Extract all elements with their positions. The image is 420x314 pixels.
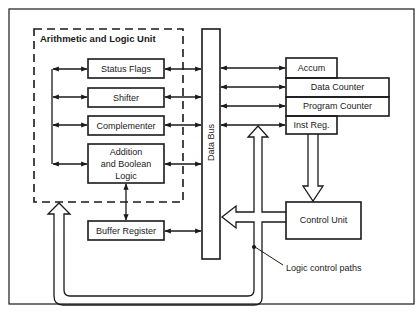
- buffer-register-label: Buffer Register: [88, 226, 164, 236]
- logic-path-upper: [48, 126, 286, 305]
- program-counter-label: Program Counter: [286, 101, 389, 111]
- logic-control-paths-annotation: Logic control paths: [286, 263, 362, 273]
- inst-reg-label: Inst Reg.: [286, 120, 337, 130]
- data-counter-label: Data Counter: [286, 82, 389, 92]
- complementer-label: Complementer: [88, 121, 164, 131]
- data-bus-label: Data Bus: [206, 124, 216, 161]
- accum-label: Accum: [286, 63, 337, 73]
- inst-to-control-path: [303, 134, 323, 201]
- status-flags-label: Status Flags: [88, 64, 164, 74]
- addition-label-line2: and Boolean: [88, 159, 164, 169]
- control-unit-label: Control Unit: [286, 215, 361, 225]
- shifter-label: Shifter: [88, 93, 164, 103]
- addition-label-line1: Addition: [88, 147, 164, 157]
- alu-title: Arithmetic and Logic Unit: [40, 34, 156, 44]
- addition-label-line3: Logic: [88, 171, 164, 181]
